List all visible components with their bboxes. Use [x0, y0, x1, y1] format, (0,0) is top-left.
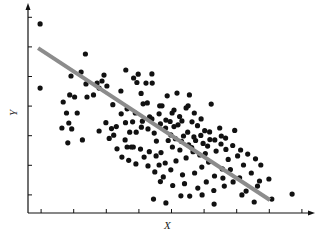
data-point [170, 144, 175, 149]
data-point [150, 81, 155, 86]
data-point [192, 110, 197, 115]
x-axis-label: X [163, 219, 172, 231]
data-point [163, 160, 168, 165]
data-point [173, 158, 178, 163]
data-point [212, 202, 217, 207]
data-point [142, 155, 147, 160]
data-point [266, 176, 271, 181]
data-point [290, 192, 295, 197]
data-point [107, 136, 112, 141]
data-point [232, 128, 237, 133]
data-point [171, 107, 176, 112]
data-point [143, 81, 148, 86]
data-point [195, 123, 200, 128]
data-point [166, 138, 171, 143]
data-point [38, 21, 43, 26]
data-point [161, 174, 166, 179]
data-point [168, 167, 173, 172]
data-point [134, 130, 139, 135]
data-point [204, 179, 209, 184]
data-point [212, 173, 217, 178]
data-point [165, 93, 170, 98]
data-point [239, 192, 244, 197]
data-point [222, 184, 227, 189]
data-point [110, 102, 115, 107]
data-point [185, 130, 190, 135]
data-point [220, 176, 225, 181]
data-point [72, 94, 77, 99]
data-point [180, 172, 185, 177]
data-point [126, 158, 131, 163]
data-point [217, 125, 222, 130]
data-point [152, 131, 157, 136]
data-point [69, 126, 74, 131]
data-point [103, 120, 108, 125]
data-point [230, 143, 235, 148]
data-point [138, 147, 143, 152]
data-point [238, 147, 243, 152]
data-points [38, 21, 295, 206]
data-point [131, 144, 136, 149]
data-point [157, 162, 162, 167]
data-point [189, 119, 194, 124]
regression-line [38, 48, 270, 200]
data-point [211, 188, 216, 193]
data-point [199, 116, 204, 121]
y-axis-arrow-icon [26, 3, 31, 10]
data-point [212, 137, 217, 142]
data-point [114, 146, 119, 151]
data-point [235, 153, 240, 158]
data-point [91, 92, 96, 97]
data-point [141, 101, 146, 106]
data-point [145, 126, 150, 131]
data-point [134, 80, 139, 85]
data-point [257, 178, 262, 183]
data-point [187, 92, 192, 97]
data-point [99, 78, 104, 83]
data-point [83, 51, 88, 56]
data-point [252, 199, 257, 204]
data-point [249, 170, 254, 175]
data-point [198, 133, 203, 138]
data-point [101, 73, 106, 78]
data-point [157, 111, 162, 116]
scatter-plot: X Y [0, 0, 319, 236]
data-point [231, 179, 236, 184]
data-point [139, 91, 144, 96]
data-point [130, 119, 135, 124]
data-point [131, 75, 136, 80]
data-point [136, 72, 141, 77]
data-point [104, 83, 109, 88]
data-point [195, 186, 200, 191]
data-point [168, 119, 173, 124]
data-point [119, 155, 124, 160]
data-point [151, 197, 156, 202]
y-axis-label: Y [7, 108, 19, 116]
data-point [177, 147, 182, 152]
data-point [154, 153, 159, 158]
data-point [149, 71, 154, 76]
data-point [182, 181, 187, 186]
data-point [158, 150, 163, 155]
data-point [118, 88, 123, 93]
data-point [109, 126, 114, 131]
data-point [123, 137, 128, 142]
data-point [199, 165, 204, 170]
data-point [174, 91, 179, 96]
data-point [201, 141, 206, 146]
data-point [97, 128, 102, 133]
data-point [191, 134, 196, 139]
data-point [111, 133, 116, 138]
data-point [192, 170, 197, 175]
data-point [205, 144, 210, 149]
data-point [202, 128, 207, 133]
data-point [38, 86, 43, 91]
data-point [177, 114, 182, 119]
data-point [119, 111, 124, 116]
x-axis-arrow-icon [308, 211, 315, 216]
data-point [175, 122, 180, 127]
data-point [152, 169, 157, 174]
data-point [145, 163, 150, 168]
data-point [123, 67, 128, 72]
data-point [61, 99, 66, 104]
